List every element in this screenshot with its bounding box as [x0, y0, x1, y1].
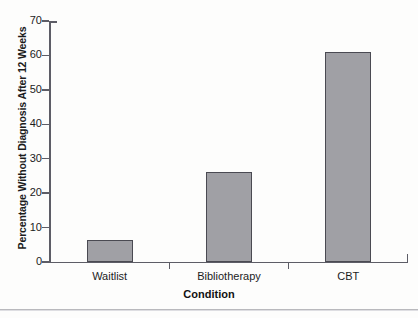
- y-tick-label: 20: [2, 187, 42, 198]
- y-tick-mark: [42, 89, 49, 91]
- y-tick-label: 10: [2, 222, 42, 233]
- x-tick-mark: [288, 262, 290, 269]
- x-axis-end-cap: [407, 254, 409, 262]
- bar: [87, 240, 133, 262]
- page-edge-line-soft: [0, 310, 418, 311]
- x-category-label: CBT: [288, 270, 408, 282]
- y-tick-label: 70: [2, 15, 42, 26]
- y-tick-label: 40: [2, 118, 42, 129]
- y-tick-mark: [42, 227, 49, 229]
- x-tick-mark: [169, 262, 171, 269]
- y-tick-mark: [42, 261, 49, 263]
- x-category-label: Waitlist: [50, 270, 170, 282]
- y-tick-label: 50: [2, 84, 42, 95]
- y-tick-mark: [42, 158, 49, 160]
- x-category-label: Bibliotherapy: [169, 270, 289, 282]
- y-tick-label: 30: [2, 153, 42, 164]
- y-axis-line: [49, 21, 51, 263]
- x-axis-title: Condition: [0, 288, 418, 300]
- y-axis-top-cap: [49, 21, 57, 23]
- y-tick-mark: [42, 55, 49, 57]
- y-tick-mark: [42, 192, 49, 194]
- y-tick-mark: [42, 20, 49, 22]
- bar: [325, 52, 371, 262]
- y-tick-mark: [42, 124, 49, 126]
- y-tick-label: 60: [2, 49, 42, 60]
- bar: [206, 172, 252, 262]
- bar-chart-figure: Percentage Without Diagnosis After 12 We…: [0, 0, 418, 318]
- y-tick-label: 0: [2, 256, 42, 267]
